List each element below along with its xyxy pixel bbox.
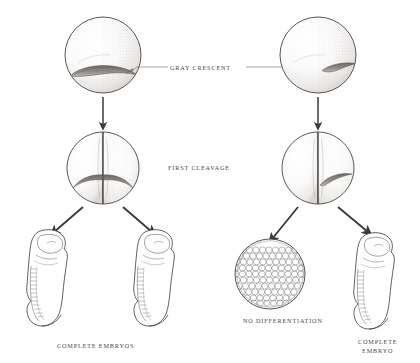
arrow-right-branch-left: [272, 207, 298, 239]
gray-crescent-diagram: GRAY CRESCENT FIRST CLEAVAGE COMPLETE EM…: [0, 0, 420, 363]
diagram-artwork: [0, 0, 420, 363]
complete-embryo-2: [134, 230, 175, 326]
right-egg-cell: [280, 17, 357, 98]
label-complete-embryos: COMPLETE EMBRYOS: [57, 341, 134, 350]
left-two-cell-stage: [67, 132, 141, 208]
complete-embryo-1: [27, 230, 68, 326]
left-egg-cell: [65, 17, 141, 98]
complete-embryo-3: [354, 233, 395, 329]
label-complete-embryo-line1: COMPLETE: [358, 337, 397, 346]
right-two-cell-stage: [282, 132, 356, 208]
arrow-right-branch-right: [338, 207, 368, 232]
arrow-left-branch-right: [123, 207, 152, 232]
undifferentiated-cell-ball: [233, 239, 305, 309]
label-no-differentiation: NO DIFFERENTIATION: [243, 316, 323, 325]
label-first-cleavage: FIRST CLEAVAGE: [168, 163, 230, 172]
label-gray-crescent: GRAY CRESCENT: [170, 63, 231, 72]
label-complete-embryo-line2: EMBRYO: [358, 346, 397, 355]
arrow-left-branch-left: [54, 207, 83, 232]
label-complete-embryo: COMPLETE EMBRYO: [358, 337, 397, 356]
